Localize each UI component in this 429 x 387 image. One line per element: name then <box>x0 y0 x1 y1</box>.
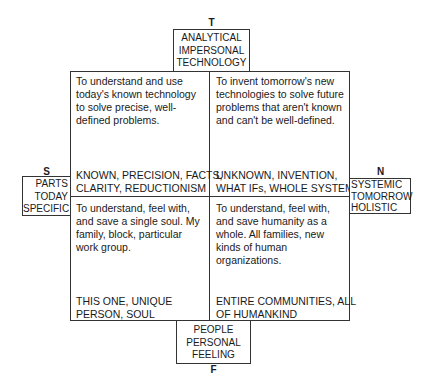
horizontal-divider <box>70 196 350 197</box>
pole-bottom-line-1: PEOPLE <box>177 324 250 337</box>
quadrant-top-left-description: To understand and use today's known tech… <box>76 75 206 127</box>
pole-right-line-3: HOLISTIC <box>351 202 410 214</box>
pole-box-bottom: PEOPLE PERSONAL FEELING <box>176 320 251 364</box>
keyword-line: UNKNOWN, INVENTION, <box>216 169 361 182</box>
keyword-line: ENTIRE COMMUNITIES, ALL <box>216 295 356 308</box>
quadrant-top-right-keywords: UNKNOWN, INVENTION, WHAT IFs, WHOLE SYST… <box>216 169 361 195</box>
pole-left-line-3: SPECIFIC <box>23 203 68 216</box>
pole-left-line-1: PARTS <box>23 178 68 191</box>
pole-top-line-2: IMPERSONAL <box>174 45 249 58</box>
axis-letter-t: T <box>173 18 250 28</box>
keyword-line: WHAT IFs, WHOLE SYSTEMS <box>216 182 361 195</box>
keyword-line: KNOWN, PRECISION, FACTS, <box>76 169 222 182</box>
quadrant-top-left-keywords: KNOWN, PRECISION, FACTS, CLARITY, REDUCT… <box>76 169 222 195</box>
quadrant-top-right-description: To invent tomorrow's new technologies to… <box>216 75 346 127</box>
pole-box-right: SYSTEMIC TOMORROW HOLISTIC <box>349 178 411 214</box>
pole-bottom-line-3: FEELING <box>177 349 250 362</box>
quadrant-bottom-left-description: To understand, feel with, and save a sin… <box>76 202 206 254</box>
quadrant-bottom-right-description: To understand, feel with, and save human… <box>216 202 346 267</box>
quadrant-bottom-left-keywords: THIS ONE, UNIQUE PERSON, SOUL <box>76 295 172 321</box>
axis-letter-f: F <box>176 365 251 375</box>
pole-right-line-2: TOMORROW <box>351 191 410 203</box>
pole-left-line-2: TODAY <box>23 191 68 204</box>
keyword-line: THIS ONE, UNIQUE <box>76 295 172 308</box>
pole-bottom-line-2: PERSONAL <box>177 337 250 350</box>
pole-right-line-1: SYSTEMIC <box>351 179 410 191</box>
quadrant-bottom-right-keywords: ENTIRE COMMUNITIES, ALL OF HUMANKIND <box>216 295 356 321</box>
keyword-line: PERSON, SOUL <box>76 308 172 321</box>
pole-top-line-3: TECHNOLOGY <box>174 57 249 70</box>
keyword-line: CLARITY, REDUCTIONISM <box>76 182 222 195</box>
pole-box-left: PARTS TODAY SPECIFIC <box>22 176 71 216</box>
pole-top-line-1: ANALYTICAL <box>174 32 249 45</box>
pole-box-top: ANALYTICAL IMPERSONAL TECHNOLOGY <box>173 29 250 72</box>
